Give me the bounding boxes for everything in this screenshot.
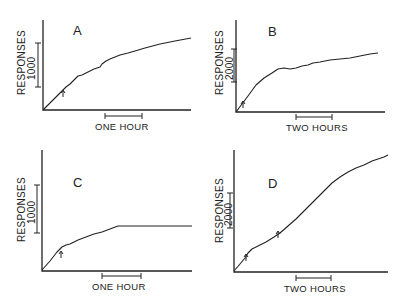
- panel-c-letter: C: [73, 175, 82, 190]
- panel-a: A RESPONSES 1000 ONE HOUR: [16, 20, 191, 132]
- panel-b-time-scale-bar: [296, 114, 332, 120]
- panel-a-letter: A: [73, 23, 82, 38]
- panel-c-time-scale-bar: [102, 273, 141, 279]
- panel-b-letter: B: [268, 24, 277, 39]
- panel-c-yscale-label: 1000: [26, 200, 37, 224]
- panel-c-xscale-label: ONE HOUR: [92, 281, 146, 292]
- cumulative-records-figure: A RESPONSES 1000 ONE HOUR B RESPONSES 20…: [0, 0, 395, 304]
- panel-b-xscale-label: TWO HOURS: [286, 122, 348, 133]
- panel-a-curve: [43, 38, 191, 110]
- panel-c-event-arrow-icon: [59, 251, 63, 258]
- panel-b-yscale-label: 2000: [224, 56, 235, 80]
- panel-d-xscale-label: TWO HOURS: [284, 283, 346, 294]
- panel-a-yscale-label: 1000: [26, 56, 37, 80]
- panel-d-letter: D: [268, 176, 277, 191]
- panel-a-xscale-label: ONE HOUR: [95, 121, 149, 132]
- panel-a-axes: [43, 20, 191, 110]
- panel-d-event-arrow-icon-2: [276, 231, 280, 238]
- panel-c-axes: [42, 150, 192, 271]
- panel-d-yscale-label: 2000: [223, 202, 234, 226]
- panel-a-time-scale-bar: [105, 113, 142, 119]
- panel-b-axes: [236, 20, 385, 112]
- panel-d-time-scale-bar: [296, 275, 331, 281]
- panel-d: D RESPONSES 2000 TWO HOURS: [214, 150, 388, 294]
- panel-c: C RESPONSES 1000 ONE HOUR: [16, 150, 192, 292]
- panel-b-curve: [236, 53, 378, 112]
- panel-c-curve: [42, 226, 192, 270]
- panel-d-curve: [234, 155, 388, 271]
- panel-b: B RESPONSES 2000 TWO HOURS: [214, 20, 385, 133]
- panel-d-axes: [234, 150, 388, 272]
